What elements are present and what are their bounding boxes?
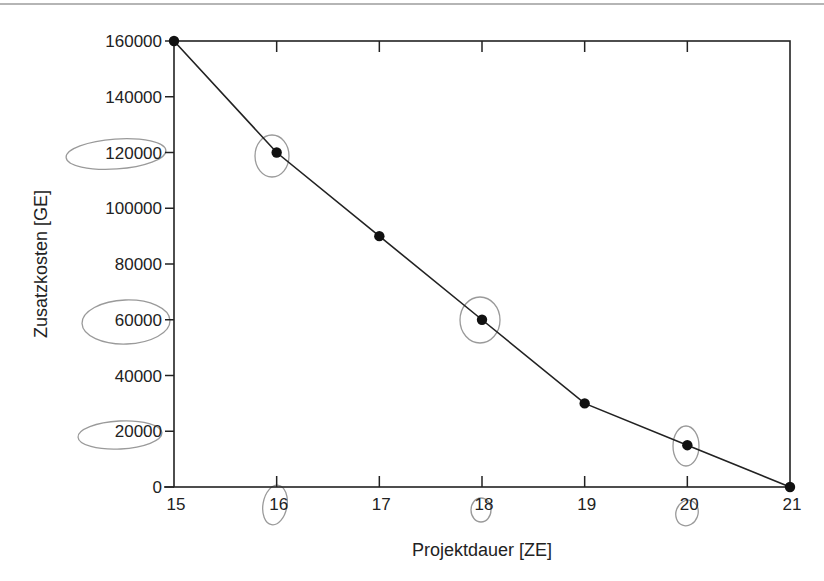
y-tick-label: 100000 <box>105 199 162 218</box>
y-tick-label: 140000 <box>105 88 162 107</box>
y-tick-label: 60000 <box>115 311 162 330</box>
x-tick-label: 17 <box>372 495 391 514</box>
y-tick-label: 20000 <box>115 422 162 441</box>
x-tick-label: 18 <box>475 495 494 514</box>
y-tick-label: 160000 <box>105 32 162 51</box>
x-tick-label: 21 <box>783 495 802 514</box>
data-point-marker <box>169 36 179 46</box>
y-tick-label: 80000 <box>115 255 162 274</box>
line-chart: 0200004000060000800001000001200001400001… <box>0 0 824 581</box>
series-line <box>174 41 790 487</box>
x-tick-label: 19 <box>577 495 596 514</box>
data-point-marker <box>579 398 589 408</box>
chart-axes <box>164 41 790 487</box>
data-point-marker <box>374 231 384 241</box>
plot-frame <box>174 41 790 487</box>
y-tick-label: 0 <box>153 478 162 497</box>
x-tick-label: 20 <box>680 495 699 514</box>
data-point-marker <box>682 440 692 450</box>
x-tick-label: 15 <box>167 495 186 514</box>
x-tick-label: 16 <box>269 495 288 514</box>
data-point-marker <box>477 315 487 325</box>
x-axis-label: Projektdauer [ZE] <box>412 540 552 560</box>
pencil-annotations <box>65 135 702 529</box>
data-point-marker <box>785 482 795 492</box>
pencil-circle-point16 <box>255 135 289 177</box>
data-point-marker <box>271 147 281 157</box>
y-tick-label: 40000 <box>115 367 162 386</box>
y-axis-label: Zusatzkosten [GE] <box>31 190 51 338</box>
tick-labels: 0200004000060000800001000001200001400001… <box>105 32 801 514</box>
y-tick-label: 120000 <box>105 144 162 163</box>
data-series <box>169 36 795 492</box>
